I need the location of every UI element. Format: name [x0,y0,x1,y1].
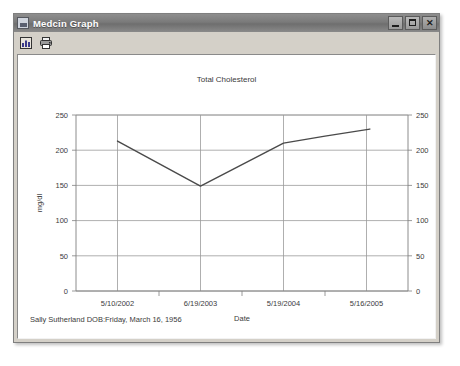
svg-text:0: 0 [64,287,68,296]
maximize-button[interactable] [405,16,420,30]
chart-canvas: 050100150200250 050100150200250 5/10/200… [18,55,436,339]
application-icon [17,17,29,29]
title-bar[interactable]: Medcin Graph ✕ [14,14,439,32]
close-button[interactable]: ✕ [422,16,437,30]
printer-icon [39,36,53,50]
y-axis-left-tick-labels: 050100150200250 [55,111,68,296]
patient-info-label: Sally Sutherland DOB:Friday, March 16, 1… [30,315,182,324]
y-axis-right-tick-labels: 050100150200250 [416,111,429,296]
svg-text:0: 0 [416,287,420,296]
chart: Total Cholesterol 050100150200250 050100… [18,55,435,338]
svg-text:5/10/2002: 5/10/2002 [101,299,134,308]
minimize-icon [392,25,399,27]
x-axis-title: Date [234,314,250,323]
svg-text:200: 200 [416,146,429,155]
svg-text:150: 150 [55,181,68,190]
svg-text:150: 150 [416,181,429,190]
svg-text:50: 50 [416,252,424,261]
x-axis-tick-labels: 5/10/20026/19/20035/19/20045/16/2005 [101,299,383,308]
title-bar-left: Medcin Graph [17,17,388,29]
svg-text:5/19/2004: 5/19/2004 [267,299,300,308]
chart-series-line [118,129,370,186]
medcin-graph-window: Medcin Graph ✕ [13,13,440,343]
chart-gridlines [76,115,408,291]
svg-text:250: 250 [416,111,429,120]
minimize-button[interactable] [388,16,403,30]
svg-text:6/19/2003: 6/19/2003 [184,299,217,308]
close-icon: ✕ [423,17,436,29]
maximize-icon [409,19,416,26]
svg-text:200: 200 [55,146,68,155]
toolbar [14,32,439,53]
svg-text:250: 250 [55,111,68,120]
svg-text:50: 50 [60,252,68,261]
svg-text:100: 100 [416,216,429,225]
graph-button[interactable] [17,34,35,52]
chart-client-area: Total Cholesterol 050100150200250 050100… [17,54,436,339]
graph-icon [19,36,33,50]
window-title: Medcin Graph [33,18,99,29]
window-controls: ✕ [388,16,437,30]
svg-text:100: 100 [55,216,68,225]
chart-axes [72,115,412,296]
y-axis-title: mg/dl [35,193,44,212]
svg-text:5/16/2005: 5/16/2005 [350,299,383,308]
print-button[interactable] [37,34,55,52]
